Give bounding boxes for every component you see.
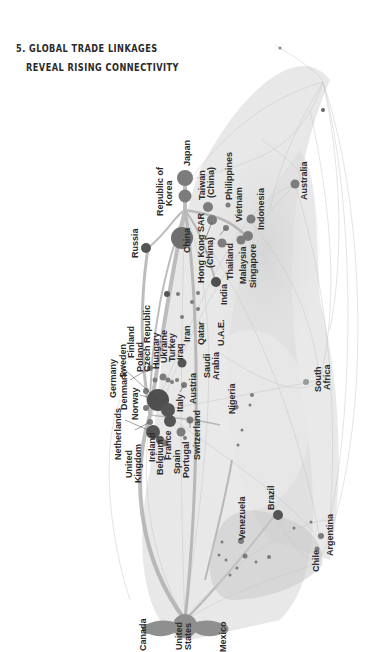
label-south-africa-2: Africa [322,363,332,390]
label-switzerland: Switzerland [192,410,202,460]
label-venezuela: Venezuela [237,495,247,540]
label-denmark: Denmark [119,370,129,410]
node-latam-8[interactable] [310,521,313,524]
node-poland[interactable] [160,374,167,381]
node-france[interactable] [164,415,176,427]
label-portugal: Portugal [181,441,191,478]
node-latam-4[interactable] [229,574,232,577]
label-philippines: Philippines [224,152,234,200]
node-philippines[interactable] [226,203,231,208]
label-chile: Chile [311,550,321,572]
node-iran[interactable] [190,300,194,304]
node-africa-2[interactable] [249,404,252,407]
node-ukraine[interactable] [175,378,179,382]
trade-network-diagram: Japan Republic of Korea China Taiwan (Ch… [0,0,379,652]
node-latam-3[interactable] [225,559,228,562]
node-latam-1[interactable] [243,554,248,559]
node-portugal[interactable] [183,436,187,440]
label-argentina: Argentina [325,513,335,556]
label-hongkong-2: (China) [205,237,215,268]
node-indonesia[interactable] [247,215,256,224]
node-south-africa[interactable] [303,379,309,385]
node-italy[interactable] [161,403,175,417]
label-brazil: Brazil [266,485,276,510]
node-singapore[interactable] [243,231,253,241]
label-korea-2: Korea [164,179,174,206]
label-taiwan-2: (China) [206,167,216,198]
label-vietnam: Vietnam [234,187,244,222]
label-singapore: Singapore [248,244,258,288]
node-oceania-2[interactable] [279,47,282,50]
node-middle-east-1[interactable] [164,291,170,297]
label-canada-visible: Canada [138,617,148,651]
label-italy: Italy [175,394,185,412]
label-us-line2: States [183,623,193,650]
node-latam-7[interactable] [293,527,296,530]
label-poland: Poland [135,342,145,372]
label-russia: Russia [130,227,140,258]
label-saudi-2: Arabia [211,351,221,380]
node-latam-2[interactable] [267,555,271,559]
label-nigeria: Nigeria [227,382,237,414]
node-africa-3[interactable] [241,429,244,432]
label-hungary: Hungary [151,332,161,369]
node-finland[interactable] [153,378,158,383]
label-germany: Germany [108,359,118,398]
label-mexico: Mexico [218,621,228,652]
node-africa-4[interactable] [237,444,240,447]
node-hongkong[interactable] [207,215,217,225]
label-india: India [219,283,229,305]
node-africa-1[interactable] [250,393,254,397]
label-netherlands: Netherlands [113,408,123,460]
label-malaysia: Malaysia [238,245,248,284]
node-iraq[interactable] [180,315,184,319]
node-middle-east-2[interactable] [176,292,180,296]
node-norway[interactable] [143,405,149,411]
label-japan: Japan [182,140,192,166]
label-australia: Australia [299,160,309,200]
label-norway: Norway [130,387,140,420]
node-uae[interactable] [196,291,200,295]
label-qatar: Qatar [196,321,206,345]
node-latam-5[interactable] [236,567,239,570]
node-latam-10[interactable] [218,554,221,557]
node-latam-6[interactable] [255,561,258,564]
node-russia[interactable] [141,243,151,253]
node-argentina[interactable] [318,533,324,539]
label-thailand: Thailand [225,243,235,280]
node-spain[interactable] [177,428,186,437]
us-label-group: United States [174,622,193,650]
node-latam-9[interactable] [221,541,224,544]
node-oceania-1[interactable] [321,108,325,112]
node-korea[interactable] [179,190,192,203]
node-taiwan[interactable] [203,202,213,212]
label-iran: Iran [182,325,192,342]
label-austria: Austria [188,372,198,404]
label-china: China [182,227,192,253]
label-uae: U.A.E. [216,319,226,346]
node-hungary[interactable] [170,380,174,384]
label-uk-2: Kingdom [133,444,143,483]
label-indonesia: Indonesia [256,187,266,230]
node-czech[interactable] [166,378,171,383]
node-brazil[interactable] [273,510,283,520]
node-japan[interactable] [177,170,193,186]
node-qatar[interactable] [196,307,200,311]
